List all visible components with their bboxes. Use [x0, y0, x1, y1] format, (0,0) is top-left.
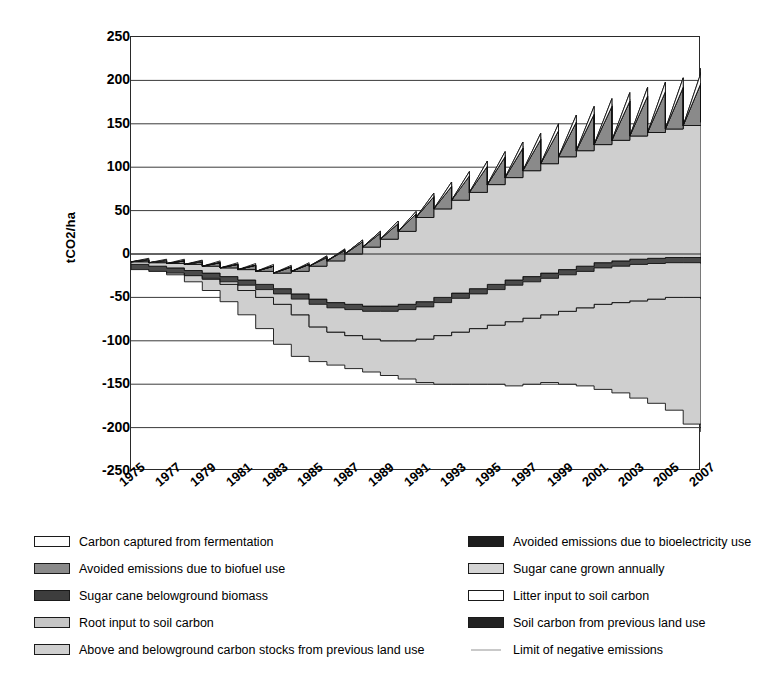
legend-swatch-left-3: [34, 617, 70, 628]
legend-item-left-1[interactable]: Avoided emissions due to biofuel use: [34, 555, 426, 582]
legend-label-right-3: Soil carbon from previous land use: [513, 616, 705, 630]
legend-item-right-2[interactable]: Litter input to soil carbon: [468, 582, 784, 609]
chart-page: tCO2/ha 250200150100500-50-100-150-200-2…: [0, 0, 784, 685]
legend-swatch-right-1: [468, 563, 504, 574]
legend-swatch-left-1: [34, 563, 70, 574]
legend-item-left-2[interactable]: Sugar cane belowground biomass: [34, 582, 426, 609]
y-tick--50: -50: [110, 289, 130, 303]
legend-item-left-4[interactable]: Above and belowground carbon stocks from…: [34, 636, 426, 663]
legend-swatch-right-2: [468, 590, 504, 601]
legend-label-left-3: Root input to soil carbon: [79, 616, 214, 630]
legend-item-left-3[interactable]: Root input to soil carbon: [34, 609, 426, 636]
legend-swatch-left-4: [34, 644, 70, 655]
chart-figure: tCO2/ha 250200150100500-50-100-150-200-2…: [0, 0, 784, 520]
legend-item-right-3[interactable]: Soil carbon from previous land use: [468, 609, 784, 636]
y-axis-title: tCO2/ha: [63, 208, 78, 268]
y-tick-0: 0: [122, 246, 130, 260]
y-axis-tick-labels: 250200150100500-50-100-150-200-250: [86, 26, 130, 474]
legend-label-left-1: Avoided emissions due to biofuel use: [79, 562, 285, 576]
legend-column-left: Carbon captured from fermentationAvoided…: [34, 528, 426, 663]
legend-label-left-2: Sugar cane belowground biomass: [79, 589, 268, 603]
legend-item-left-0[interactable]: Carbon captured from fermentation: [34, 528, 426, 555]
x-axis-tick-labels: 1975197719791981198319851987198919911993…: [0, 474, 784, 520]
legend-label-right-1: Sugar cane grown annually: [513, 562, 665, 576]
legend-item-right-4[interactable]: Limit of negative emissions: [468, 636, 784, 663]
y-tick--200: -200: [102, 420, 130, 434]
legend-label-right-2: Litter input to soil carbon: [513, 589, 649, 603]
y-tick-200: 200: [107, 72, 130, 86]
y-tick-100: 100: [107, 159, 130, 173]
stacked-area-plot: [131, 37, 701, 471]
legend-column-right: Avoided emissions due to bioelectricity …: [468, 528, 784, 663]
legend-swatch-right-4: [471, 649, 501, 651]
legend-label-right-4: Limit of negative emissions: [513, 643, 663, 657]
legend-swatch-left-0: [34, 536, 70, 547]
y-tick-50: 50: [114, 203, 130, 217]
legend-swatch-left-2: [34, 590, 70, 601]
y-tick-250: 250: [107, 29, 130, 43]
legend-label-right-0: Avoided emissions due to bioelectricity …: [513, 535, 751, 549]
chart-legend: Carbon captured from fermentationAvoided…: [0, 528, 784, 668]
y-tick-150: 150: [107, 116, 130, 130]
legend-swatch-right-0: [468, 536, 504, 547]
legend-item-right-1[interactable]: Sugar cane grown annually: [468, 555, 784, 582]
legend-label-left-4: Above and belowground carbon stocks from…: [79, 643, 424, 657]
legend-swatch-right-3: [468, 617, 504, 628]
y-tick--100: -100: [102, 333, 130, 347]
y-tick--150: -150: [102, 376, 130, 390]
legend-label-left-0: Carbon captured from fermentation: [79, 535, 274, 549]
legend-item-right-0[interactable]: Avoided emissions due to bioelectricity …: [468, 528, 784, 555]
plot-area: [130, 36, 700, 470]
